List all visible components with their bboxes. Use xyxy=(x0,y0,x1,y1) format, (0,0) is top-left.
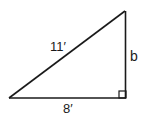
height-label: b xyxy=(130,49,138,63)
triangle-figure xyxy=(0,0,148,120)
hypotenuse-line xyxy=(9,11,125,98)
triangle-diagram: 11′ 8′ b xyxy=(0,0,148,120)
hypotenuse-label: 11′ xyxy=(50,40,66,53)
base-label: 8′ xyxy=(63,102,73,115)
